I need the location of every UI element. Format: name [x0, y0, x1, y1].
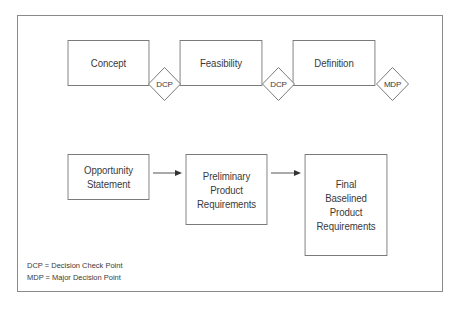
arrow-right-icon [153, 169, 182, 177]
requirements-label: Final Baselined Product Requirements [316, 177, 375, 233]
phase-box-definition: Definition [293, 40, 376, 86]
legend-dcp: DCP = Decision Check Point [27, 261, 123, 270]
requirements-box-opportunity: Opportunity Statement [68, 154, 150, 200]
phase-box-feasibility: Feasibility [180, 40, 263, 86]
decision-diamond-mdp: MDP [376, 67, 409, 101]
phase-label: Feasibility [200, 56, 242, 70]
decision-diamond-dcp-2: DCP [262, 67, 295, 101]
requirements-label: Preliminary Product Requirements [197, 169, 256, 211]
decision-diamond-dcp-1: DCP [148, 67, 181, 101]
requirements-box-final: Final Baselined Product Requirements [305, 154, 388, 256]
decision-label: MDP [376, 67, 409, 101]
phase-label: Definition [314, 56, 353, 70]
requirements-box-preliminary: Preliminary Product Requirements [186, 154, 268, 225]
phase-box-concept: Concept [68, 40, 150, 86]
phase-label: Concept [91, 56, 126, 70]
requirements-label: Opportunity Statement [84, 163, 133, 191]
legend-mdp: MDP = Major Decision Point [27, 273, 121, 282]
decision-label: DCP [148, 67, 181, 101]
decision-label: DCP [262, 67, 295, 101]
arrow-right-icon [271, 169, 301, 177]
